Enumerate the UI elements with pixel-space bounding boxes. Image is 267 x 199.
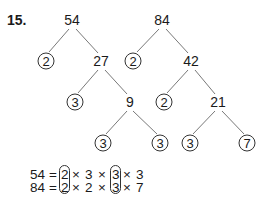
eq-84-factor-3: 3 — [112, 181, 120, 195]
tree-84-prime-7: 7 — [239, 135, 256, 152]
tree-54-prime-3: 3 — [67, 94, 84, 111]
tree-54-node-27: 27 — [93, 54, 109, 68]
tree-84-prime-2: 2 — [125, 53, 142, 70]
tree-84-node-21: 21 — [210, 95, 226, 109]
tree-84-node-42: 42 — [183, 54, 199, 68]
tree-54-prime-3-left: 3 — [95, 135, 112, 152]
tree-54-root: 54 — [64, 13, 80, 27]
tree-84-prime-3: 3 — [182, 135, 199, 152]
eq-84-times-3: × — [123, 181, 131, 195]
tree-84-prime-2-b: 2 — [156, 94, 173, 111]
eq-84-factor-1: 2 — [61, 181, 69, 195]
problem-number: 15. — [7, 12, 26, 28]
tree-54-prime-3-right: 3 — [152, 135, 169, 152]
tree-84-root: 84 — [154, 13, 170, 27]
tree-54-prime-2: 2 — [38, 53, 55, 70]
eq-84-times-1: × — [72, 181, 80, 195]
eq-84-times-2: × — [98, 181, 106, 195]
eq-84-lhs: 84 — [30, 181, 45, 195]
eq-84-factor-2: 2 — [85, 181, 93, 195]
eq-84-factor-4: 7 — [136, 181, 144, 195]
eq-84-equals: = — [49, 181, 57, 195]
tree-54-node-9: 9 — [126, 95, 134, 109]
